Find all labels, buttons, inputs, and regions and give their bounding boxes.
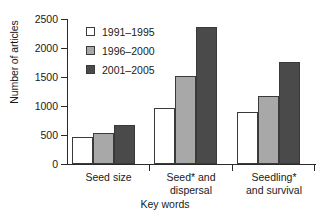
x-axis-title: Key words — [0, 198, 330, 210]
legend: 1991–1995 1996–2000 2001–2005 — [86, 22, 155, 79]
bar-seed-size-1991-1995 — [72, 137, 93, 164]
bar-seed-size-2001-2005 — [114, 125, 135, 164]
bar-seedling-survival-2001-2005 — [279, 62, 300, 164]
legend-item-1991-1995: 1991–1995 — [86, 22, 155, 41]
y-tick-label-1000: 1000 — [22, 101, 58, 111]
y-tick-1500 — [61, 77, 67, 78]
bar-seed-dispersal-2001-2005 — [196, 27, 217, 165]
x-axis-line — [67, 164, 316, 165]
legend-swatch-icon-1996-2000 — [86, 46, 95, 55]
y-tick-label-2000: 2000 — [22, 43, 58, 53]
legend-swatch-icon-2001-2005 — [86, 65, 95, 74]
y-tick-label-1500: 1500 — [22, 72, 58, 82]
legend-item-2001-2005: 2001–2005 — [86, 60, 155, 79]
y-tick-label-2500: 2500 — [22, 14, 58, 24]
legend-swatch-icon-1991-1995 — [86, 27, 95, 36]
y-tick-500 — [61, 135, 67, 136]
y-axis-title: Number of articles — [8, 2, 20, 122]
x-group-label-seed-dispersal: Seed* and dispersal — [150, 171, 232, 196]
x-group-label-seed-size: Seed size — [68, 171, 149, 184]
y-tick-label-0: 0 — [22, 159, 58, 169]
legend-label-1996-2000: 1996–2000 — [102, 45, 155, 57]
bar-chart: Number of articles 0 500 1000 1500 2000 … — [0, 0, 330, 219]
legend-label-1991-1995: 1991–1995 — [102, 26, 155, 38]
x-group-label-seedling-survival: Seedling* and survival — [233, 171, 315, 196]
y-tick-2000 — [61, 48, 67, 49]
y-tick-1000 — [61, 106, 67, 107]
y-tick-label-500: 500 — [22, 130, 58, 140]
bar-seedling-survival-1991-1995 — [237, 112, 258, 164]
bar-seed-dispersal-1991-1995 — [154, 108, 175, 164]
legend-item-1996-2000: 1996–2000 — [86, 41, 155, 60]
bar-seed-size-1996-2000 — [93, 133, 114, 164]
bar-seedling-survival-1996-2000 — [258, 96, 279, 164]
bar-seed-dispersal-1996-2000 — [175, 76, 196, 164]
y-tick-0 — [61, 164, 67, 165]
legend-label-2001-2005: 2001–2005 — [102, 64, 155, 76]
y-tick-2500 — [61, 19, 67, 20]
